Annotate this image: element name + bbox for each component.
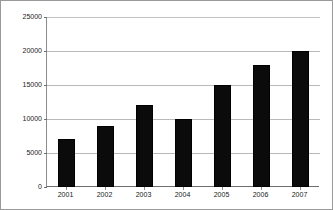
y-tick-label: 20000 [1,47,42,54]
x-tick-label: 2006 [241,191,280,198]
y-tick-label: 5000 [1,149,42,156]
x-tick-mark [66,187,67,190]
x-tick-mark [183,187,184,190]
y-tick-label: 10000 [1,115,42,122]
x-tick-label: 2007 [280,191,319,198]
x-tick-label: 2005 [202,191,241,198]
bar-chart-figure: 0500010000150002000025000 20012002200320… [0,0,333,210]
x-tick-label: 2002 [85,191,124,198]
x-tick-mark [105,187,106,190]
y-tick-label: 0 [1,183,42,190]
x-tick-label: 2001 [46,191,85,198]
x-tick-mark [300,187,301,190]
y-tick-label: 25000 [1,13,42,20]
x-tick-label: 2004 [163,191,202,198]
y-tick-label: 15000 [1,81,42,88]
x-axis: 2001200220032004200520062007 [46,1,319,210]
x-tick-label: 2003 [124,191,163,198]
x-tick-mark [222,187,223,190]
x-tick-mark [144,187,145,190]
x-tick-mark [261,187,262,190]
